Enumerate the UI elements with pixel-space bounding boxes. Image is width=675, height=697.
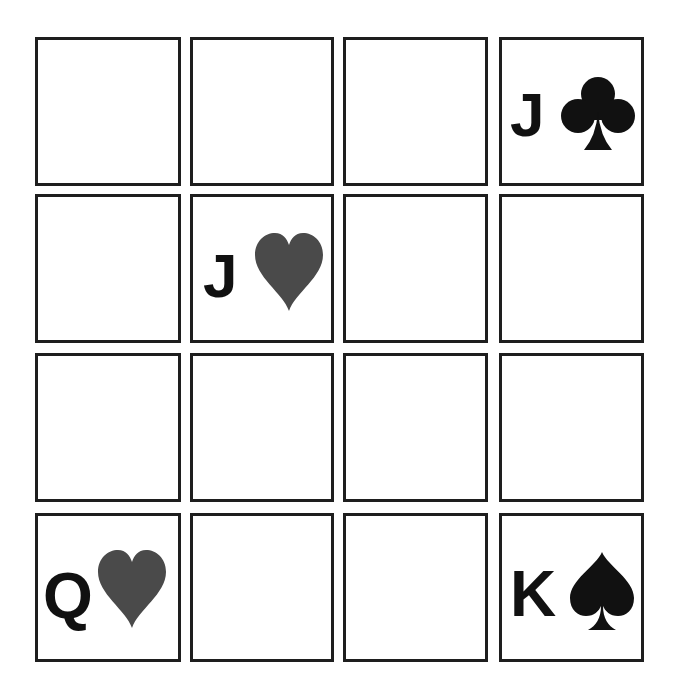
grid-cell-r3-c3[interactable]: K xyxy=(499,513,644,662)
grid-cell-r1-c2[interactable] xyxy=(343,194,488,343)
grid-cell-r2-c1[interactable] xyxy=(190,353,334,502)
grid-cell-r3-c1[interactable] xyxy=(190,513,334,662)
grid-cell-r2-c0[interactable] xyxy=(35,353,181,502)
spade-icon xyxy=(568,552,636,632)
grid-cell-r2-c2[interactable] xyxy=(343,353,488,502)
grid-cell-r0-c0[interactable] xyxy=(35,37,181,186)
club-icon xyxy=(558,72,638,152)
card-rank: Q xyxy=(43,564,93,628)
heart-icon xyxy=(96,549,168,631)
grid-cell-r0-c2[interactable] xyxy=(343,37,488,186)
card-jack-of-hearts: J xyxy=(193,197,331,340)
card-king-of-spades: K xyxy=(502,516,641,659)
card-rank: K xyxy=(510,562,556,626)
grid-cell-r1-c0[interactable] xyxy=(35,194,181,343)
grid-cell-r2-c3[interactable] xyxy=(499,353,644,502)
card-rank: J xyxy=(510,84,544,146)
grid-cell-r0-c3[interactable]: J xyxy=(499,37,644,186)
grid-cell-r3-c0[interactable]: Q xyxy=(35,513,181,662)
grid-cell-r1-c3[interactable] xyxy=(499,194,644,343)
card-queen-of-hearts: Q xyxy=(38,516,178,659)
card-jack-of-clubs: J xyxy=(502,40,641,183)
grid-cell-r0-c1[interactable] xyxy=(190,37,334,186)
card-rank: J xyxy=(203,245,237,307)
grid-cell-r3-c2[interactable] xyxy=(343,513,488,662)
grid-cell-r1-c1[interactable]: J xyxy=(190,194,334,343)
heart-icon xyxy=(253,233,325,313)
